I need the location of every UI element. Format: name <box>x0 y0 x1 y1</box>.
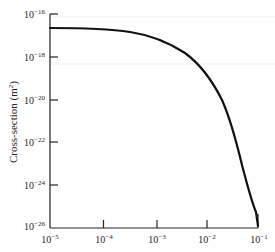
y-tick-label: 10−24 <box>24 179 45 191</box>
chart: 10−16 10−18 10−20 10−22 10−24 10−26 10−5… <box>0 0 275 252</box>
axes <box>50 14 258 228</box>
x-tick-label: 10−4 <box>95 233 113 245</box>
y-tick-label: 10−18 <box>24 51 45 63</box>
y-tick-labels: 10−16 10−18 10−20 10−22 10−24 10−26 <box>24 8 45 232</box>
x-tick-labels: 10−5 10−4 10−3 10−2 10−1 <box>41 233 268 245</box>
cross-section-curve <box>50 28 258 226</box>
y-tick-label: 10−16 <box>24 8 45 20</box>
y-tick-label: 10−20 <box>24 94 45 106</box>
y-tick-label: 10−26 <box>24 220 45 232</box>
x-tick-label: 10−1 <box>250 233 268 245</box>
x-tick-label: 10−2 <box>198 233 216 245</box>
y-tick-label: 10−22 <box>24 136 45 148</box>
y-axis-label: Cross-section (m2) <box>7 81 20 163</box>
x-tick-label: 10−3 <box>148 233 166 245</box>
x-tick-label: 10−5 <box>41 233 59 245</box>
